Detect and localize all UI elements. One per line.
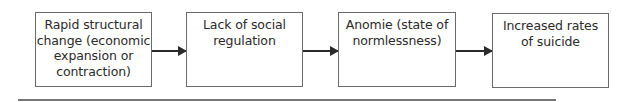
node-rapid-structural-change: Rapid structural change (economic expans… bbox=[35, 12, 152, 87]
node-lack-of-social-regulation: Lack of social regulation bbox=[186, 12, 303, 87]
node-line: Increased rates bbox=[493, 18, 608, 34]
node-anomie: Anomie (state of normlessness) bbox=[338, 12, 456, 87]
node-line: contraction) bbox=[36, 64, 151, 80]
node-line: expansion or bbox=[36, 48, 151, 64]
node-line: Lack of social bbox=[187, 17, 302, 33]
arrow-3-to-4 bbox=[456, 50, 492, 52]
node-line: regulation bbox=[187, 33, 302, 49]
node-line: Rapid structural bbox=[36, 17, 151, 33]
bottom-rule-divider bbox=[18, 99, 556, 101]
node-increased-suicide-rates: Increased rates of suicide bbox=[492, 13, 609, 88]
arrow-2-to-3 bbox=[303, 50, 338, 52]
node-line: of suicide bbox=[493, 34, 608, 50]
node-line: change (economic bbox=[36, 33, 151, 49]
arrow-1-to-2 bbox=[152, 50, 186, 52]
node-line: Anomie (state of bbox=[339, 17, 455, 33]
node-line: normlessness) bbox=[339, 33, 455, 49]
